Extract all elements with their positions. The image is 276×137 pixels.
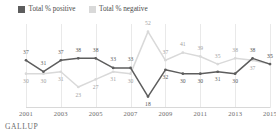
data-label-positive: 30 <box>232 79 238 85</box>
data-label-negative: 30 <box>41 79 47 85</box>
plot-area: 3731373838333318323030313038353030312327… <box>26 24 270 108</box>
data-label-positive: 30 <box>180 79 186 85</box>
data-label-positive: 38 <box>93 48 99 54</box>
data-label-negative: 52 <box>145 21 151 27</box>
marker-positive[interactable] <box>129 67 132 70</box>
marker-negative[interactable] <box>129 72 132 75</box>
marker-negative[interactable] <box>94 78 97 81</box>
marker-negative[interactable] <box>77 86 80 89</box>
gallup-line-chart: Total % positive Total % negative 373137… <box>0 0 276 137</box>
data-label-positive: 18 <box>145 102 151 108</box>
data-label-negative: 38 <box>232 48 238 54</box>
marker-negative[interactable] <box>60 70 63 73</box>
x-tick-2007: 2007 <box>124 110 138 117</box>
x-tick-2001: 2001 <box>19 110 33 117</box>
series-lines <box>26 24 270 108</box>
data-label-negative: 23 <box>75 93 81 99</box>
x-tick-2013: 2013 <box>228 110 242 117</box>
x-tick-2005: 2005 <box>89 110 103 117</box>
data-label-negative: 27 <box>93 85 99 91</box>
legend-label-positive: Total % positive <box>29 6 76 13</box>
data-label-negative: 31 <box>110 77 116 83</box>
data-label-negative: 30 <box>128 79 134 85</box>
chart-legend: Total % positive Total % negative <box>18 6 148 13</box>
legend-label-negative: Total % negative <box>99 6 148 13</box>
data-label-positive: 38 <box>75 48 81 54</box>
data-label-positive: 30 <box>197 79 203 85</box>
marker-negative[interactable] <box>216 63 219 66</box>
data-label-negative: 31 <box>58 77 64 83</box>
data-label-negative: 35 <box>215 54 221 60</box>
source-attribution: GALLUP <box>5 122 38 131</box>
data-label-negative: 41 <box>180 42 186 48</box>
marker-positive[interactable] <box>234 72 237 75</box>
marker-positive[interactable] <box>60 59 63 62</box>
marker-negative[interactable] <box>234 57 237 60</box>
marker-negative[interactable] <box>182 51 185 54</box>
x-tick-2011: 2011 <box>193 110 207 117</box>
marker-positive[interactable] <box>112 67 115 70</box>
legend-item-positive[interactable]: Total % positive <box>18 6 76 13</box>
legend-swatch-negative <box>89 6 96 13</box>
data-label-negative: 30 <box>23 79 29 85</box>
gridline-2015 <box>270 24 271 108</box>
data-label-positive: 32 <box>163 76 169 82</box>
x-tick-2003: 2003 <box>54 110 68 117</box>
marker-positive[interactable] <box>77 57 80 60</box>
data-label-negative: 39 <box>197 46 203 52</box>
x-tick-2015: 2015 <box>263 110 276 117</box>
marker-positive[interactable] <box>216 70 219 73</box>
marker-negative[interactable] <box>147 30 150 33</box>
marker-positive[interactable] <box>147 95 150 98</box>
marker-positive[interactable] <box>94 57 97 60</box>
data-label-positive: 33 <box>110 58 116 64</box>
marker-positive[interactable] <box>251 57 254 60</box>
data-label-negative: 37 <box>163 50 169 56</box>
marker-negative[interactable] <box>199 55 202 58</box>
data-label-negative: 35 <box>267 54 273 60</box>
data-label-positive: 37 <box>23 50 29 56</box>
marker-negative[interactable] <box>164 59 167 62</box>
marker-positive[interactable] <box>164 68 167 71</box>
data-label-positive: 38 <box>250 48 256 54</box>
marker-negative[interactable] <box>112 70 115 73</box>
data-label-negative: 37 <box>250 66 256 72</box>
marker-positive[interactable] <box>269 63 272 66</box>
data-label-positive: 31 <box>41 61 47 67</box>
legend-item-negative[interactable]: Total % negative <box>89 6 148 13</box>
marker-positive[interactable] <box>42 70 45 73</box>
x-axis-ticks: 20012003200520072009201120132015 <box>26 110 270 122</box>
marker-positive[interactable] <box>182 72 185 75</box>
x-tick-2009: 2009 <box>158 110 172 117</box>
data-label-positive: 33 <box>128 58 134 64</box>
legend-swatch-positive <box>18 6 25 13</box>
marker-positive[interactable] <box>25 59 28 62</box>
data-label-positive: 37 <box>58 50 64 56</box>
marker-positive[interactable] <box>199 72 202 75</box>
marker-negative[interactable] <box>25 72 28 75</box>
data-label-positive: 31 <box>215 77 221 83</box>
